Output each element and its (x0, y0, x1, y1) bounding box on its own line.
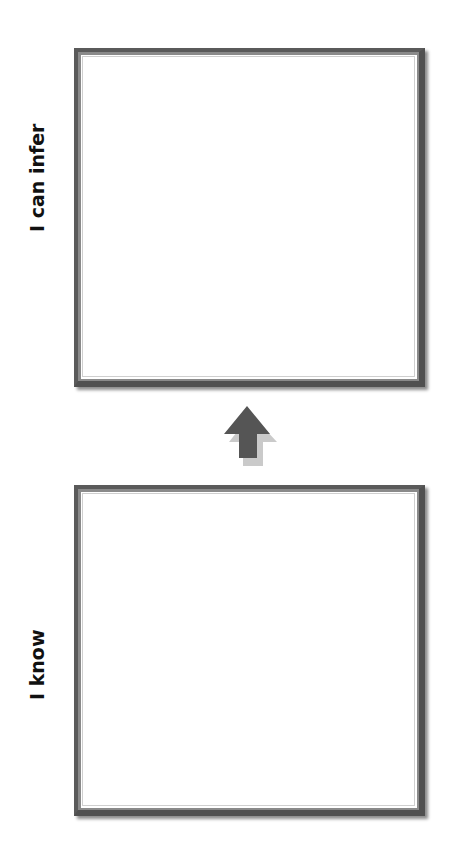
label-i-know: I know (26, 630, 48, 700)
up-arrow-icon (216, 404, 278, 466)
infer-box[interactable] (74, 48, 425, 387)
label-i-can-infer: I can infer (26, 124, 48, 232)
know-box[interactable] (74, 485, 425, 816)
